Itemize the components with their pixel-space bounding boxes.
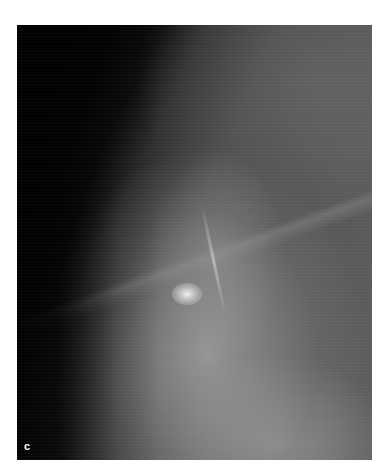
film-texture (17, 25, 372, 460)
panel-label: c (24, 440, 30, 452)
mammogram-image: c (17, 25, 372, 460)
